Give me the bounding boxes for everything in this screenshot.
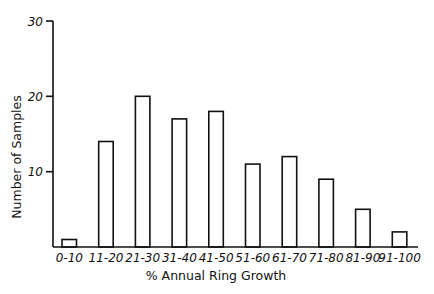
x-tick-label: 51-60 [235,251,270,265]
y-axis-ticks: 102030 [28,15,53,180]
y-tick-label: 20 [28,90,44,104]
x-axis-title: % Annual Ring Growth [146,268,287,283]
bar-chart: 102030 0-1011-2021-3031-4041-5051-6061-7… [0,0,434,294]
bar-71-80 [319,179,334,247]
x-tick-label: 81-90 [345,251,380,265]
bar-0-10 [62,240,77,248]
x-tick-label: 71-80 [309,251,344,265]
x-tick-label: 21-30 [125,251,160,265]
bar-11-20 [99,142,114,248]
y-tick-label: 30 [28,15,44,29]
bar-31-40 [172,119,187,247]
x-tick-label: 91-100 [378,251,421,265]
x-axis-tick-labels: 0-1011-2021-3031-4041-5051-6061-7071-808… [56,251,422,265]
bar-51-60 [246,164,261,247]
bars-group [62,96,407,247]
bar-81-90 [356,209,371,247]
x-tick-label: 41-50 [199,251,234,265]
bar-21-30 [135,96,150,247]
bar-91-100 [392,232,407,247]
x-tick-label: 11-20 [89,251,124,265]
x-tick-label: 31-40 [162,251,197,265]
x-tick-label: 0-10 [56,251,84,265]
x-tick-label: 61-70 [272,251,307,265]
y-axis-title: Number of Samples [9,95,24,219]
bar-61-70 [282,157,297,247]
y-tick-label: 10 [28,165,44,179]
bar-41-50 [209,111,224,247]
